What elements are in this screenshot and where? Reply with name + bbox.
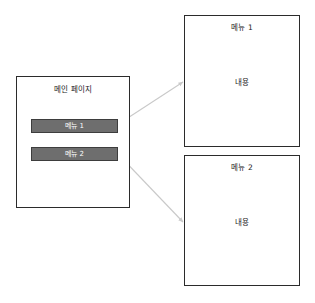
menu-button-2[interactable]: 메뉴 2	[31, 147, 118, 161]
content-page-2-body: 내용	[185, 218, 299, 228]
content-page-box-2: 메뉴 2 내용	[184, 155, 300, 286]
content-page-2-title: 메뉴 2	[185, 163, 299, 173]
diagram-canvas: 메인 페이지 메뉴 1 메뉴 2 메뉴 1 내용 메뉴 2 내용	[0, 0, 315, 303]
content-page-box-1: 메뉴 1 내용	[184, 15, 300, 147]
menu-button-1[interactable]: 메뉴 1	[31, 119, 118, 133]
content-page-1-body: 내용	[185, 78, 299, 88]
main-page-title: 메인 페이지	[17, 85, 129, 95]
content-page-1-title: 메뉴 1	[185, 23, 299, 33]
main-page-box: 메인 페이지 메뉴 1 메뉴 2	[16, 76, 130, 208]
